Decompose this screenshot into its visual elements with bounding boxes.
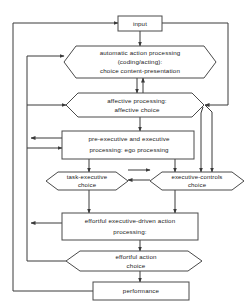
flowchart-canvas: input automatic action processing (codin… (0, 0, 245, 308)
conn-affective-side-to-execcontrols (201, 107, 203, 172)
node-effortful-executive-driven-action-processing[interactable]: effortful executive-driven action proces… (62, 213, 198, 240)
node-pre-executive-label-0: pre-executive and executive (88, 135, 170, 142)
node-executive-controls-label-1: choice (188, 182, 207, 188)
conn-affective-to-execcontrols (205, 105, 212, 172)
node-executive-controls-label-0: executive-controls (171, 174, 222, 180)
node-performance-label-0: performance (123, 287, 160, 294)
node-pre-executive-processing[interactable]: pre-executive and executive processing: … (62, 131, 194, 159)
node-input[interactable]: input (118, 16, 162, 31)
node-effortful-box-label-1: processing: (113, 228, 146, 235)
node-effortful-choice-label-0: effortful action (115, 253, 157, 260)
node-task-executive-label-0: task-executive (67, 174, 108, 180)
node-affective-processing[interactable]: affective processing: affective choice (66, 93, 204, 117)
node-affective-label-1: affective choice (115, 106, 160, 113)
node-automatic-label-2: choice content-presentation (100, 67, 180, 74)
node-affective-label-0: affective processing: (107, 97, 167, 104)
node-automatic-label-1: (coding/acting): (118, 58, 163, 65)
node-task-executive-choice[interactable]: task-executive choice (46, 172, 128, 190)
node-effortful-action-choice[interactable]: effortful action choice (66, 251, 202, 271)
node-effortful-box-label-0: effortful executive-driven action (85, 217, 176, 224)
conn-effortfulchoice-to-innerleft (27, 230, 66, 261)
node-automatic-action-processing[interactable]: automatic action processing (coding/acti… (64, 46, 216, 78)
node-pre-executive-label-1: processing: ego processing (89, 146, 169, 153)
node-performance[interactable]: performance (93, 282, 189, 300)
flowchart-svg: input automatic action processing (codin… (0, 0, 245, 308)
node-executive-controls-choice[interactable]: executive-controls choice (150, 172, 244, 190)
node-task-executive-label-1: choice (78, 182, 97, 188)
node-input-label-0: input (133, 20, 147, 27)
node-effortful-choice-label-1: choice (127, 262, 146, 269)
node-automatic-label-0: automatic action processing (100, 49, 181, 56)
